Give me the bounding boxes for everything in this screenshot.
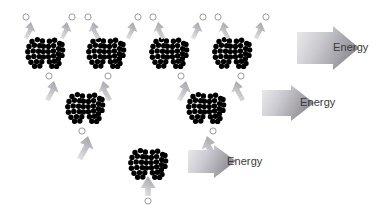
neutron-emitted-left-gen1 (79, 128, 85, 134)
energy-label-1: Energy (333, 42, 368, 53)
nucleus-gen3-b (86, 37, 126, 69)
neutron-path-arrow-gen1-left (77, 136, 93, 161)
neutron-emitted-gen2-a-left (46, 73, 52, 79)
neutron-top-3 (85, 14, 91, 20)
neutron-top-4 (135, 14, 141, 20)
neutron-path-arrow-top-4 (126, 22, 138, 40)
neutron-emitted-gen2-b-right (238, 73, 244, 79)
neutron-top-8 (263, 14, 269, 20)
diagram-canvas: .nucleus circle{ fill:#f2f2f4; stroke:#6… (0, 0, 389, 218)
neutron-path-arrow-top-5 (154, 22, 166, 40)
neutron-path-arrow-top-7 (219, 22, 231, 40)
nucleus-gen1-a (128, 148, 168, 180)
energy-label-3: Energy (227, 156, 262, 167)
neutron-path-arrow-top-6 (191, 22, 203, 40)
nucleus-gen3-c (149, 37, 189, 69)
neutron-path-arrow-top-3 (89, 22, 101, 40)
neutron-path-arrow-top-1 (24, 22, 36, 40)
neutron-path-arrow-gen2-b-left (177, 81, 191, 102)
incident-neutron-group (141, 176, 156, 204)
nucleus-gen3-d (212, 37, 252, 69)
neutron-path-arrow-gen2-b-right (231, 81, 245, 102)
nucleus-gen2-a (65, 92, 105, 124)
neutron-incident (145, 198, 151, 204)
fission-chain-reaction-diagram: .nucleus circle{ fill:#f2f2f4; stroke:#6… (0, 0, 389, 218)
neutron-emitted-gen2-a-right (105, 73, 111, 79)
neutron-top-5 (150, 14, 156, 20)
emitted-neutron-group-gen3 (23, 14, 269, 40)
neutron-top-2 (69, 14, 75, 20)
neutron-path-arrow-top-8 (254, 22, 266, 40)
neutron-path-arrow-top-2 (60, 22, 72, 40)
neutron-top-6 (200, 14, 206, 20)
nucleus-gen2-b (186, 92, 226, 124)
nucleus-gen3-a (25, 37, 65, 69)
neutron-emitted-gen2-b-left (178, 73, 184, 79)
neutron-path-arrow-gen2-a-left (45, 81, 59, 102)
neutron-top-1 (23, 14, 29, 20)
energy-label-2: Energy (300, 97, 335, 108)
neutron-top-7 (215, 14, 221, 20)
neutron-emitted-right-gen1 (210, 128, 216, 134)
